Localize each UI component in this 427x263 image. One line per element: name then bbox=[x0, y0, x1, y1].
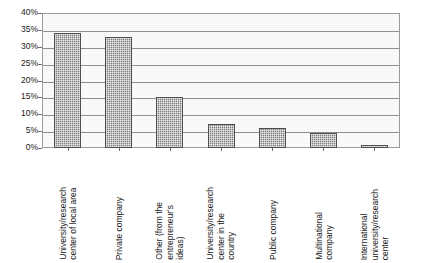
x-axis-category: Other (from the entrepreneur's ideas) bbox=[144, 150, 195, 260]
bar bbox=[310, 133, 337, 148]
x-axis-category: International university/research center bbox=[349, 150, 400, 260]
y-axis-tick-mark bbox=[38, 131, 42, 132]
y-axis-tick-label: 20% bbox=[0, 76, 38, 85]
x-axis-category: University/research center in the countr… bbox=[195, 150, 246, 260]
x-axis-category: University/research center of local area bbox=[42, 150, 93, 260]
y-axis-tick-mark bbox=[38, 47, 42, 48]
y-axis-tick-label: 35% bbox=[0, 25, 38, 34]
x-axis-category-label: University/research center in the countr… bbox=[205, 187, 237, 260]
y-axis-tick-label: 30% bbox=[0, 42, 38, 51]
y-axis-tick-mark bbox=[38, 97, 42, 98]
x-axis-category: Public company bbox=[247, 150, 298, 260]
x-axis-category-label: University/research center of local area bbox=[57, 187, 78, 260]
y-axis-tick-mark bbox=[38, 114, 42, 115]
bar bbox=[259, 128, 286, 148]
x-axis-category: Multinational company bbox=[298, 150, 349, 260]
y-axis-tick-label: 5% bbox=[0, 126, 38, 135]
x-axis-category-label: International university/research center bbox=[359, 189, 391, 260]
y-axis-tick-mark bbox=[38, 81, 42, 82]
x-axis-category-label: Private company bbox=[113, 197, 124, 260]
x-axis-category-label: Other (from the entrepreneur's ideas) bbox=[154, 202, 186, 260]
x-axis-category: Private company bbox=[93, 150, 144, 260]
bars-layer bbox=[42, 13, 400, 148]
bar-chart: University/research center of local area… bbox=[0, 0, 427, 263]
y-axis-tick-label: 40% bbox=[0, 8, 38, 17]
y-axis-tick-mark bbox=[38, 64, 42, 65]
y-axis-tick-label: 25% bbox=[0, 59, 38, 68]
y-axis-tick-mark bbox=[38, 148, 42, 149]
x-axis-category-labels: University/research center of local area… bbox=[42, 150, 400, 263]
y-axis-tick-mark bbox=[38, 30, 42, 31]
x-axis-category-label: Public company bbox=[267, 200, 278, 260]
bar bbox=[105, 37, 132, 148]
y-axis-tick-label: 0% bbox=[0, 143, 38, 152]
x-axis-category-label: Multinational company bbox=[313, 212, 334, 260]
bar bbox=[54, 33, 81, 148]
y-axis-tick-label: 15% bbox=[0, 92, 38, 101]
bar bbox=[208, 124, 235, 148]
y-axis-tick-label: 10% bbox=[0, 109, 38, 118]
y-axis-tick-mark bbox=[38, 13, 42, 14]
bar bbox=[156, 97, 183, 148]
